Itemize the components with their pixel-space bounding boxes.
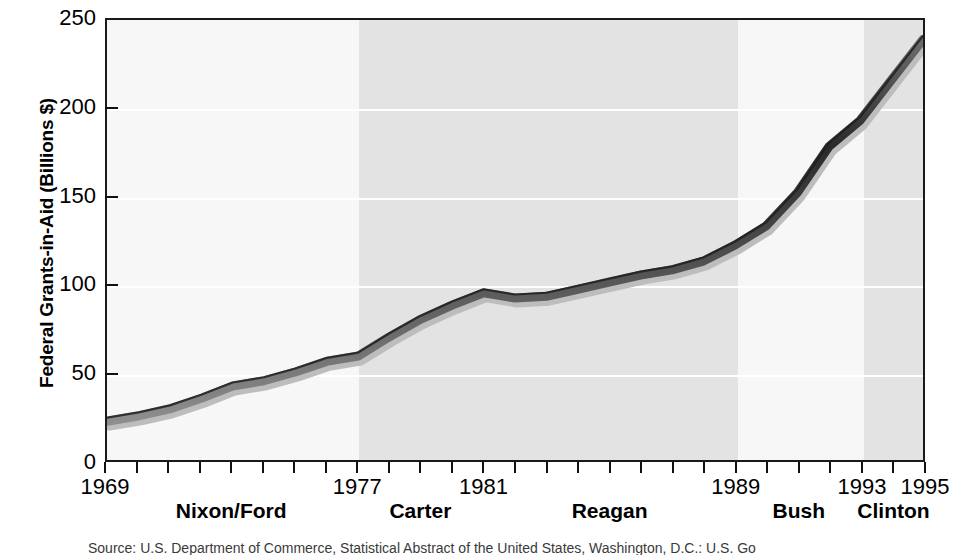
era-label-carter: Carter (389, 500, 451, 521)
y-tick-label-50: 50 (34, 362, 96, 384)
x-tick-mark-1983 (546, 462, 548, 473)
x-tick-mark-1984 (577, 462, 579, 473)
x-tick-mark-1974 (262, 462, 264, 473)
y-tick-label-200: 200 (34, 96, 96, 118)
y-tick-label-150: 150 (34, 185, 96, 207)
y-tick-label-250: 250 (34, 7, 96, 29)
x-tick-mark-1988 (703, 462, 705, 473)
x-tick-mark-1970 (136, 462, 138, 473)
chart-figure: Federal Grants-in-Aid (Billions $) 05010… (0, 0, 962, 555)
x-tick-label-1989: 1989 (711, 476, 760, 498)
x-tick-mark-1989 (735, 462, 737, 473)
era-labels: Nixon/FordCarterReaganBushClinton (0, 500, 962, 528)
x-tick-mark-1975 (293, 462, 295, 473)
y-tick-mark-50 (105, 373, 118, 375)
x-tick-mark-1992 (829, 462, 831, 473)
x-tick-mark-1971 (167, 462, 169, 473)
era-label-nixon-ford: Nixon/Ford (176, 500, 287, 521)
x-tick-label-1977: 1977 (333, 476, 382, 498)
x-tick-mark-1978 (388, 462, 390, 473)
x-tick-label-1995: 1995 (901, 476, 950, 498)
source-note: Source: U.S. Department of Commerce, Sta… (88, 541, 756, 555)
era-label-bush: Bush (773, 500, 826, 521)
x-tick-mark-1995 (924, 462, 926, 473)
x-tick-mark-1969 (104, 462, 106, 473)
line-series (107, 20, 923, 460)
x-tick-label-1993: 1993 (837, 476, 886, 498)
x-tick-label-1969: 1969 (81, 476, 130, 498)
x-tick-mark-1980 (451, 462, 453, 473)
x-tick-mark-1990 (766, 462, 768, 473)
x-tick-mark-1976 (325, 462, 327, 473)
x-tick-mark-1979 (419, 462, 421, 473)
x-tick-mark-1973 (230, 462, 232, 473)
y-tick-mark-200 (105, 107, 118, 109)
x-tick-mark-1987 (672, 462, 674, 473)
x-tick-mark-1986 (640, 462, 642, 473)
era-label-clinton: Clinton (857, 500, 929, 521)
x-tick-label-1981: 1981 (459, 476, 508, 498)
x-tick-mark-1981 (482, 462, 484, 473)
plot-area (105, 18, 925, 462)
y-tick-mark-100 (105, 284, 118, 286)
x-tick-mark-1982 (514, 462, 516, 473)
x-axis-ticks: 196919771981198919931995 (0, 462, 962, 476)
x-tick-mark-1994 (892, 462, 894, 473)
x-tick-mark-1985 (609, 462, 611, 473)
x-tick-mark-1991 (798, 462, 800, 473)
y-tick-label-100: 100 (34, 273, 96, 295)
x-tick-mark-1972 (199, 462, 201, 473)
era-label-reagan: Reagan (572, 500, 648, 521)
y-tick-mark-150 (105, 196, 118, 198)
x-tick-mark-1977 (356, 462, 358, 473)
x-tick-mark-1993 (861, 462, 863, 473)
